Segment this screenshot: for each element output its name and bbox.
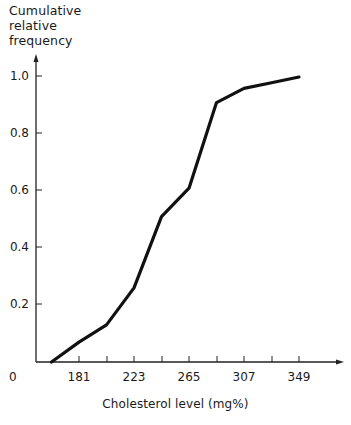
y-tick-label: 0.6 — [10, 183, 29, 197]
x-tick-label: 349 — [288, 370, 311, 384]
x-axis-arrow-icon — [336, 360, 344, 365]
x-tick-label: 181 — [68, 370, 91, 384]
y-tick-label: 0.2 — [10, 297, 29, 311]
y-tick-labels: 1.0 0.8 0.6 0.4 0.2 — [10, 69, 29, 311]
x-axis-title: Cholesterol level (mg%) — [0, 397, 351, 411]
chart-plot-area: 1.0 0.8 0.6 0.4 0.2 0 181 223 265 307 34… — [0, 0, 351, 425]
origin-label: 0 — [9, 370, 17, 384]
y-tick-label: 1.0 — [10, 69, 29, 83]
x-ticks — [79, 356, 299, 362]
y-tick-label: 0.4 — [10, 240, 29, 254]
x-tick-label: 223 — [123, 370, 146, 384]
axes — [34, 54, 345, 365]
y-axis-arrow-icon — [34, 54, 39, 62]
x-tick-label: 265 — [178, 370, 201, 384]
y-tick-label: 0.8 — [10, 126, 29, 140]
x-tick-labels: 0 181 223 265 307 349 — [9, 370, 310, 384]
cumulative-frequency-line — [52, 77, 300, 362]
y-ticks — [36, 76, 42, 304]
x-tick-label: 307 — [233, 370, 256, 384]
